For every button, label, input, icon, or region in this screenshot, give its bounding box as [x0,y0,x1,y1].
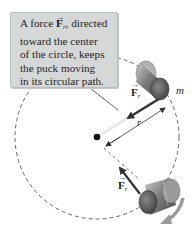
callout-line-5: in its circular path. [20,75,113,89]
force-vector-symbol: →F [56,17,63,31]
puck-top [136,61,169,100]
radius-label: r [137,117,141,128]
callout-line-2: toward the center [20,35,113,49]
force-label-bottom: →Fr [118,179,127,193]
callout-line-3: of the circle, keeps [20,48,113,62]
callout-pointer [90,88,118,110]
explanation-callout: A force →Fr, directed toward the center … [10,12,118,88]
callout-line-4: the puck moving [20,62,113,76]
puck-bottom [139,178,180,215]
center-point [94,134,101,141]
callout-line-1: A force →Fr, directed [20,17,113,35]
force-arrow-top [128,97,162,118]
mass-label: m [176,84,184,96]
force-label-top: →Fr [131,86,140,100]
